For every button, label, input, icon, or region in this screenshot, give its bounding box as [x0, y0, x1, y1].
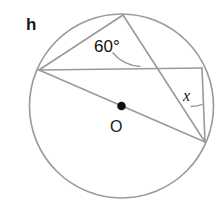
centre-dot: [117, 102, 126, 111]
geometry-diagram: h 60° x O: [0, 0, 219, 211]
angle-arc-x: [191, 104, 204, 106]
angle-label-60: 60°: [94, 38, 120, 55]
chord-top-to-bottom-right: [123, 15, 205, 142]
chord-left-to-right-upper: [39, 68, 202, 70]
angle-label-x: x: [183, 88, 190, 104]
centre-label-o: O: [110, 119, 122, 135]
figure-label-h: h: [26, 16, 36, 33]
